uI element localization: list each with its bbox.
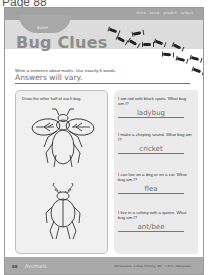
clues-panel: I am red with black spots. What bug am I… [114, 90, 198, 254]
ant-icon [133, 31, 141, 35]
drawing-instruction: Draw the other half of each bug. [22, 96, 82, 101]
footer-page-number: 88 [12, 264, 18, 269]
clue-answer: ant/bee [118, 223, 184, 232]
ant-icon [191, 56, 200, 61]
worksheet: think · know · predict · reflect Solve B… [4, 7, 204, 275]
ant-icon [193, 68, 202, 74]
ant-icon [143, 43, 151, 46]
clue-answer: cricket [118, 145, 184, 154]
clue-item: I live in a colony with a queen. What bu… [118, 210, 192, 232]
header-tagline: think · know · predict · reflect [137, 11, 193, 15]
footer-section: Animals [25, 263, 47, 269]
ant-icon [163, 53, 171, 57]
clue-answer: ladybug [118, 109, 184, 118]
prompt-answer: Answers will vary. [15, 73, 190, 84]
clue-item: I am red with black spots. What bug am I… [118, 96, 192, 118]
footer-credit: Skill Boosters · Critical Thinking · RIC… [114, 265, 191, 268]
clue-item: I can live on a dog or on a cat. What bu… [118, 172, 192, 194]
clue-answer: flea [118, 185, 184, 194]
clue-question: I live in a colony with a queen. What bu… [118, 210, 192, 221]
clue-item: I make a chirping sound. What bug am I? … [118, 132, 192, 154]
category-label: Solve [37, 25, 48, 30]
footer-bar: 88 Animals Skill Boosters · Critical Thi… [5, 257, 203, 275]
drawing-panel: Draw the other half of each bug. [15, 90, 108, 254]
clue-question: I make a chirping sound. What bug am I? [118, 132, 192, 143]
page-title: Bug Clues [16, 33, 107, 52]
beetle-drawing-icon [42, 181, 84, 245]
fly-drawing-icon [26, 103, 100, 175]
clue-question: I can live on a dog or on a cat. What bu… [118, 172, 192, 183]
ant-icon [177, 57, 186, 62]
clue-question: I am red with black spots. What bug am I… [118, 96, 192, 107]
